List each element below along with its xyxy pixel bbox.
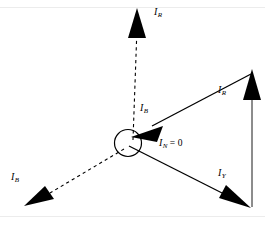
label-ib-left-symbol: I xyxy=(11,171,14,182)
label-in-zero-subscript: N xyxy=(163,142,168,150)
phasor-ib-dashed xyxy=(24,149,124,206)
phasor-iy-arrowhead xyxy=(219,185,251,208)
label-in-zero-symbol: I xyxy=(159,137,162,148)
label-ir-top-symbol: I xyxy=(154,6,157,17)
label-iy-right-subscript: Y xyxy=(222,172,226,180)
phasor-ir-resultant xyxy=(131,74,251,142)
phasor-vector-canvas xyxy=(0,0,265,225)
label-ir-right-subscript: R xyxy=(222,89,226,97)
label-in-zero-value: = 0 xyxy=(167,138,182,148)
label-ib-left: IB xyxy=(11,172,19,182)
phasor-ir-resultant-shaft xyxy=(152,74,251,126)
label-iy-right: IY xyxy=(218,168,225,178)
label-ib-center-subscript: B xyxy=(144,107,148,115)
phasor-diagram-figure: IR IB IN = 0 IR IY IB xyxy=(0,0,265,225)
label-iy-right-symbol: I xyxy=(218,167,221,178)
label-ir-top: IR xyxy=(154,7,162,17)
label-ir-top-subscript: R xyxy=(158,11,162,19)
label-ir-right: IR xyxy=(218,85,226,95)
phasor-ir-arrowhead xyxy=(128,8,146,38)
phasor-vertical-closure xyxy=(243,69,261,207)
label-in-zero: IN = 0 xyxy=(159,138,182,149)
phasor-iy xyxy=(129,146,251,208)
origin-circle xyxy=(115,130,142,157)
phasor-vertical-closure-arrowhead xyxy=(243,69,261,100)
label-ir-right-symbol: I xyxy=(218,84,221,95)
label-ib-center: IB xyxy=(140,103,148,113)
label-ib-center-symbol: I xyxy=(140,102,143,113)
phasor-ib-arrowhead xyxy=(24,186,54,206)
phasor-ib-dashed-shaft xyxy=(50,149,124,193)
phasor-ir-dashed-shaft xyxy=(133,28,137,140)
label-ib-left-subscript: B xyxy=(15,176,19,184)
phasor-iy-shaft xyxy=(129,146,228,196)
phasor-ir-dashed xyxy=(128,8,146,140)
